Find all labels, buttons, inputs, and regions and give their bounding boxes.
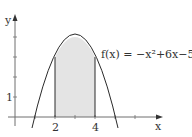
x-tick-label-2: 2 (52, 121, 59, 134)
parabola-chart: y x 2 4 1 f(x) = −x²+6x−5 (0, 0, 192, 137)
shaded-area (55, 37, 95, 117)
function-label: f(x) = −x²+6x−5 (101, 48, 192, 61)
y-axis-arrow-icon (13, 14, 18, 21)
x-tick-label-4: 4 (92, 121, 99, 134)
x-axis-label: x (155, 120, 162, 133)
y-tick-label-1: 1 (6, 91, 13, 104)
x-axis-arrow-icon (156, 115, 163, 120)
y-axis-label: y (4, 14, 12, 27)
